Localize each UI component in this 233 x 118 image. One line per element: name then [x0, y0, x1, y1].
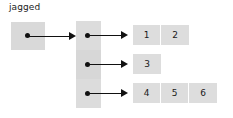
- row-array-0: 1 2: [133, 25, 189, 45]
- arrow-spine0-to-row0-head: [121, 31, 128, 39]
- row-0-cell-0: 1: [133, 25, 161, 45]
- arrow-spine2-to-row2-head: [121, 89, 128, 97]
- arrow-spine2-to-row2: [88, 93, 123, 94]
- row-0-cell-1: 2: [161, 25, 189, 45]
- jagged-array-diagram: jagged 1 2 3 4 5 6: [0, 0, 233, 118]
- row-2-cell-0: 4: [133, 83, 161, 103]
- arrow-spine1-to-row1: [88, 64, 123, 65]
- arrow-spine0-to-row0: [88, 35, 123, 36]
- row-2-cell-1: 5: [161, 83, 189, 103]
- variable-label-jagged: jagged: [9, 2, 40, 13]
- row-array-2: 4 5 6: [133, 83, 217, 103]
- row-1-cell-0: 3: [133, 54, 161, 74]
- row-2-cell-2: 6: [189, 83, 217, 103]
- row-array-1: 3: [133, 54, 161, 74]
- arrow-root-to-spine-head: [69, 32, 76, 40]
- arrow-root-to-spine: [27, 36, 71, 37]
- arrow-spine1-to-row1-head: [121, 60, 128, 68]
